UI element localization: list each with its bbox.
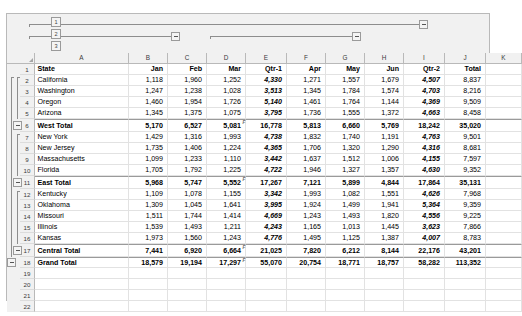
cell-empty[interactable] — [129, 268, 168, 279]
cell-empty[interactable] — [404, 290, 445, 301]
cell-A5[interactable]: Arizona — [35, 108, 129, 119]
cell-F12[interactable]: 1,993 — [287, 189, 326, 200]
cell-C8[interactable]: 1,406 — [168, 143, 207, 154]
cell-E1[interactable]: Qtr-1 — [246, 64, 287, 75]
row-outline-level-1-button[interactable]: 1 — [51, 17, 61, 27]
cell-I3[interactable]: 4,703 — [404, 86, 445, 97]
cell-E12[interactable]: 3,342 — [246, 189, 287, 200]
cell-I5[interactable]: 4,663 — [404, 108, 445, 119]
row-header-13[interactable]: 13 — [20, 200, 35, 211]
cell-empty[interactable] — [168, 301, 207, 312]
collapse-columns-level1-button[interactable] — [419, 20, 428, 29]
cell-empty[interactable] — [129, 279, 168, 290]
cell-empty[interactable] — [287, 301, 326, 312]
cell-C11[interactable]: 5,747 — [168, 176, 207, 189]
cell-A16[interactable]: Kansas — [35, 233, 129, 244]
cell-B13[interactable]: 1,309 — [129, 200, 168, 211]
cell-E14[interactable]: 4,669 — [246, 211, 287, 222]
cell-K14[interactable] — [486, 211, 522, 222]
cell-J14[interactable]: 9,225 — [445, 211, 486, 222]
cell-B7[interactable]: 1,429 — [129, 132, 168, 143]
cell-I18[interactable]: 58,282 — [404, 257, 445, 268]
cell-F11[interactable]: 7,121 — [287, 176, 326, 189]
cell-J3[interactable]: 8,216 — [445, 86, 486, 97]
cell-B6[interactable]: 5,170 — [129, 119, 168, 132]
cell-E11[interactable]: 17,267 — [246, 176, 287, 189]
cell-empty[interactable] — [445, 301, 486, 312]
cell-empty[interactable] — [35, 279, 129, 290]
collapse-columns-qtr1-button[interactable] — [171, 32, 180, 41]
cell-A13[interactable]: Oklahoma — [35, 200, 129, 211]
cell-A7[interactable]: New York — [35, 132, 129, 143]
collapse-rows-east-button[interactable] — [13, 178, 22, 187]
cell-C4[interactable]: 1,954 — [168, 97, 207, 108]
column-header-G[interactable]: G — [326, 53, 365, 64]
cell-B12[interactable]: 1,109 — [129, 189, 168, 200]
cell-C7[interactable]: 1,316 — [168, 132, 207, 143]
cell-A11[interactable]: East Total — [35, 176, 129, 189]
cell-empty[interactable] — [35, 290, 129, 301]
cell-I1[interactable]: Qtr-2 — [404, 64, 445, 75]
cell-empty[interactable] — [365, 301, 404, 312]
cell-J1[interactable]: Total — [445, 64, 486, 75]
cell-F16[interactable]: 1,495 — [287, 233, 326, 244]
cell-empty[interactable] — [207, 279, 246, 290]
cell-D13[interactable]: 1,641 — [207, 200, 246, 211]
cell-empty[interactable] — [168, 279, 207, 290]
cell-H7[interactable]: 1,191 — [365, 132, 404, 143]
row-header-9[interactable]: 9 — [20, 154, 35, 165]
cell-empty[interactable] — [445, 290, 486, 301]
cell-G1[interactable]: May — [326, 64, 365, 75]
cell-K8[interactable] — [486, 143, 522, 154]
cell-I11[interactable]: 17,864 — [404, 176, 445, 189]
cell-I17[interactable]: 22,176 — [404, 244, 445, 257]
cell-empty[interactable] — [35, 301, 129, 312]
cell-F4[interactable]: 1,461 — [287, 97, 326, 108]
cell-D3[interactable]: 1,028 — [207, 86, 246, 97]
cell-G14[interactable]: 1,493 — [326, 211, 365, 222]
cell-G15[interactable]: 1,013 — [326, 222, 365, 233]
cell-H8[interactable]: 1,290 — [365, 143, 404, 154]
cell-E10[interactable]: 4,722 — [246, 165, 287, 176]
cell-B5[interactable]: 1,345 — [129, 108, 168, 119]
row-header-6[interactable]: 6 — [20, 119, 35, 132]
collapse-rows-central-button[interactable] — [13, 246, 22, 255]
row-header-18[interactable]: 18 — [20, 257, 35, 268]
cell-B17[interactable]: 7,441 — [129, 244, 168, 257]
cell-K17[interactable] — [486, 244, 522, 257]
cell-empty[interactable] — [246, 290, 287, 301]
cell-B14[interactable]: 1,511 — [129, 211, 168, 222]
cell-G4[interactable]: 1,764 — [326, 97, 365, 108]
cell-A3[interactable]: Washington — [35, 86, 129, 97]
cell-H18[interactable]: 18,757 — [365, 257, 404, 268]
column-header-A[interactable]: A — [35, 53, 129, 64]
cell-A17[interactable]: Central Total — [35, 244, 129, 257]
cell-D16[interactable]: 1,243 — [207, 233, 246, 244]
cell-C1[interactable]: Feb — [168, 64, 207, 75]
cell-I10[interactable]: 4,630 — [404, 165, 445, 176]
cell-C18[interactable]: 19,194 — [168, 257, 207, 268]
cell-I15[interactable]: 3,623 — [404, 222, 445, 233]
cell-H5[interactable]: 1,372 — [365, 108, 404, 119]
cell-G17[interactable]: 6,212 — [326, 244, 365, 257]
cell-F13[interactable]: 1,924 — [287, 200, 326, 211]
cell-K6[interactable] — [486, 119, 522, 132]
cell-H6[interactable]: 5,769 — [365, 119, 404, 132]
cell-F18[interactable]: 20,754 — [287, 257, 326, 268]
cell-D10[interactable]: 1,225 — [207, 165, 246, 176]
collapse-rows-all-button[interactable] — [7, 258, 16, 267]
cell-empty[interactable] — [445, 268, 486, 279]
cell-G11[interactable]: 5,899 — [326, 176, 365, 189]
cell-J5[interactable]: 8,458 — [445, 108, 486, 119]
column-header-D[interactable]: D — [207, 53, 246, 64]
cell-I4[interactable]: 4,369 — [404, 97, 445, 108]
cell-A9[interactable]: Massachusetts — [35, 154, 129, 165]
cell-J16[interactable]: 8,783 — [445, 233, 486, 244]
cell-A15[interactable]: Illinois — [35, 222, 129, 233]
cell-F14[interactable]: 1,243 — [287, 211, 326, 222]
cell-K4[interactable] — [486, 97, 522, 108]
cell-empty[interactable] — [486, 301, 522, 312]
cell-J17[interactable]: 43,201 — [445, 244, 486, 257]
cell-D14[interactable]: 1,414 — [207, 211, 246, 222]
select-all-corner[interactable] — [7, 53, 35, 64]
